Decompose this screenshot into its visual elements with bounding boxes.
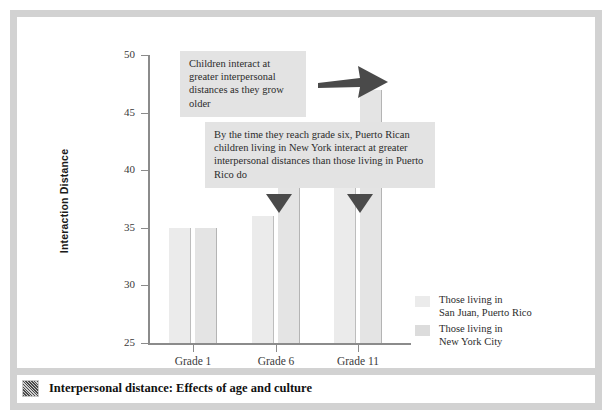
pointer-triangle-grade6-icon xyxy=(266,194,292,213)
chart-plot-area: Interaction Distance 253035404550 Grade … xyxy=(17,17,595,368)
caption-bar: Interpersonal distance: Effects of age a… xyxy=(17,375,595,403)
x-axis-line xyxy=(148,343,411,345)
chart-legend: Those living in San Juan, Puerto RicoTho… xyxy=(415,294,585,352)
pointer-triangle-grade11-icon xyxy=(347,194,373,213)
frame-border-right xyxy=(595,10,602,410)
callout-grade-six-note: By the time they reach grade six, Puerto… xyxy=(205,122,435,188)
frame-divider xyxy=(10,368,602,375)
legend-item: Those living in San Juan, Puerto Rico xyxy=(415,294,585,320)
legend-swatch xyxy=(415,296,430,307)
figure-root: Interaction Distance 253035404550 Grade … xyxy=(0,0,612,420)
y-tick-mark xyxy=(141,170,148,171)
y-tick-mark xyxy=(141,228,148,229)
y-tick-label: 40 xyxy=(95,164,135,175)
y-tick-label: 25 xyxy=(95,337,135,348)
bar xyxy=(169,228,191,343)
legend-item: Those living in New York City xyxy=(415,323,585,349)
y-tick-label: 30 xyxy=(95,279,135,290)
bar xyxy=(252,216,274,343)
textured-thumbnail-icon xyxy=(22,380,39,397)
arrow-right-icon xyxy=(318,61,390,103)
callout-growth-note: Children interact at greater interperson… xyxy=(180,51,306,117)
y-tick-mark xyxy=(141,285,148,286)
legend-label: Those living in San Juan, Puerto Rico xyxy=(439,294,585,319)
x-tick-mark xyxy=(276,345,277,352)
x-tick-label: Grade 11 xyxy=(303,355,413,367)
x-tick-mark xyxy=(193,345,194,352)
frame-border-left xyxy=(10,10,17,410)
x-tick-mark xyxy=(358,345,359,352)
y-tick-mark xyxy=(141,55,148,56)
legend-swatch xyxy=(415,325,430,336)
caption-title: Interpersonal distance: Effects of age a… xyxy=(49,380,312,397)
y-tick-label: 35 xyxy=(95,222,135,233)
bar xyxy=(195,228,217,343)
y-tick-label: 50 xyxy=(95,49,135,60)
legend-label: Those living in New York City xyxy=(439,323,585,348)
y-axis-title: Interaction Distance xyxy=(58,126,70,276)
frame-border-top xyxy=(10,10,602,17)
y-tick-mark xyxy=(141,113,148,114)
y-axis-line xyxy=(148,55,150,345)
y-tick-label: 45 xyxy=(95,107,135,118)
frame-border-bottom xyxy=(10,403,602,410)
y-tick-mark xyxy=(141,343,148,344)
